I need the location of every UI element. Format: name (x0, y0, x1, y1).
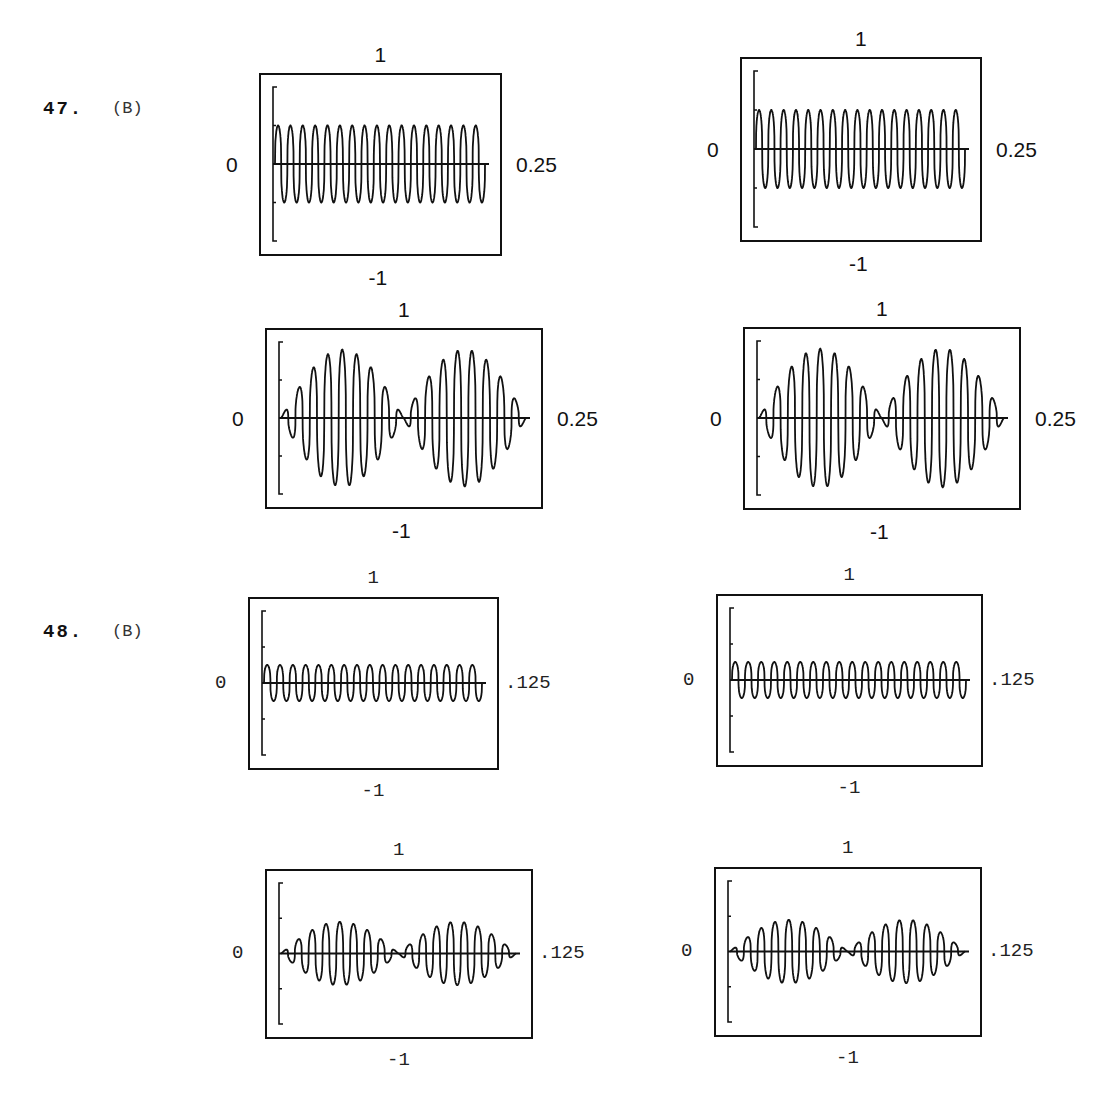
y-max-label: 1 (844, 564, 855, 586)
x-min-label: 0 (681, 940, 692, 962)
waveform-trace (742, 59, 979, 239)
x-max-label: .125 (505, 672, 551, 694)
y-min-label: -1 (838, 777, 861, 799)
y-min-label: -1 (387, 1049, 410, 1071)
y-max-label: 1 (876, 297, 888, 321)
x-max-label: 0.25 (557, 407, 598, 431)
waveform-trace (250, 599, 496, 767)
plot-frame (248, 597, 499, 770)
question-number-48: 48. (43, 621, 83, 643)
y-min-label: -1 (362, 780, 385, 802)
waveform-trace (267, 330, 540, 506)
y-max-label: 1 (393, 839, 404, 861)
x-max-label: .125 (988, 940, 1034, 962)
y-max-label: 1 (375, 43, 387, 67)
x-min-label: 0 (710, 407, 722, 431)
plot-frame (265, 869, 533, 1039)
x-min-label: 0 (215, 672, 226, 694)
y-min-label: -1 (392, 519, 411, 543)
y-min-label: -1 (849, 252, 868, 276)
plot-frame (265, 328, 543, 509)
waveform-trace (261, 75, 499, 253)
y-max-label: 1 (842, 837, 853, 859)
y-min-label: -1 (369, 266, 388, 290)
plot-frame (740, 57, 982, 242)
x-min-label: 0 (232, 942, 243, 964)
question-answer-47: (B) (112, 99, 143, 118)
y-min-label: -1 (870, 520, 889, 544)
plot-frame (716, 594, 983, 767)
x-max-label: 0.25 (1035, 407, 1076, 431)
waveform-trace (716, 869, 979, 1034)
y-max-label: 1 (855, 27, 867, 51)
y-min-label: -1 (836, 1047, 859, 1069)
x-min-label: 0 (232, 407, 244, 431)
waveform-trace (745, 329, 1018, 507)
waveform-trace (267, 871, 530, 1036)
x-min-label: 0 (226, 153, 238, 177)
y-max-label: 1 (398, 298, 410, 322)
plot-frame (259, 73, 502, 256)
question-number-47: 47. (43, 98, 83, 120)
x-max-label: 0.25 (996, 138, 1037, 162)
question-answer-48: (B) (112, 622, 143, 641)
y-max-label: 1 (368, 567, 379, 589)
x-max-label: .125 (539, 942, 585, 964)
plot-frame (714, 867, 982, 1037)
waveform-trace (718, 596, 980, 764)
x-min-label: 0 (683, 669, 694, 691)
x-max-label: 0.25 (516, 153, 557, 177)
plot-frame (743, 327, 1021, 510)
x-max-label: .125 (989, 669, 1035, 691)
x-min-label: 0 (707, 138, 719, 162)
